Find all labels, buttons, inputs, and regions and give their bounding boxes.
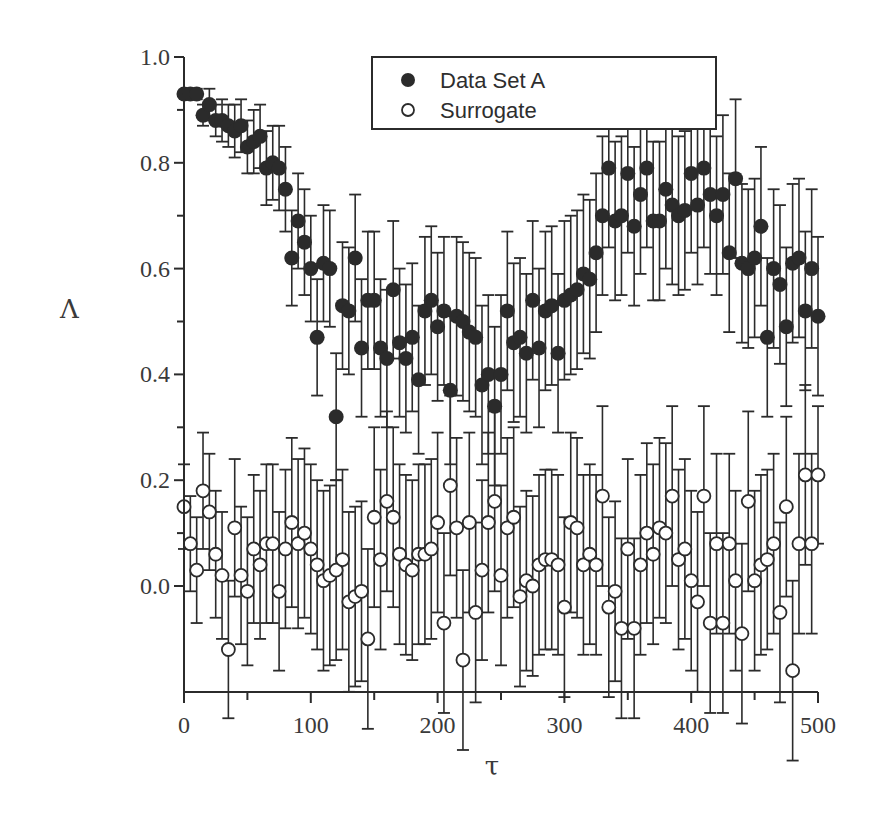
- data-point-filled: [696, 161, 711, 176]
- data-point-filled: [424, 293, 439, 308]
- data-point-filled: [443, 383, 458, 398]
- data-point-open: [615, 622, 628, 635]
- data-point-open: [273, 585, 286, 598]
- y-axis-title: Λ: [59, 294, 80, 324]
- data-point-open: [482, 516, 495, 529]
- data-point-filled: [715, 187, 730, 202]
- data-point-open: [742, 495, 755, 508]
- data-point-open: [469, 606, 482, 619]
- data-point-open: [735, 627, 748, 640]
- data-point-filled: [791, 251, 806, 266]
- data-point-filled: [779, 319, 794, 334]
- data-point-open: [748, 574, 761, 587]
- data-point-open: [526, 580, 539, 593]
- data-point-open: [792, 537, 805, 550]
- data-point-filled: [284, 251, 299, 266]
- data-point-filled: [766, 261, 781, 276]
- data-point-open: [241, 585, 254, 598]
- data-point-open: [634, 558, 647, 571]
- data-point-open: [685, 574, 698, 587]
- data-point-filled: [620, 166, 635, 181]
- data-point-open: [799, 468, 812, 481]
- data-point-open: [222, 643, 235, 656]
- data-point-filled: [329, 409, 344, 424]
- data-point-filled: [709, 208, 724, 223]
- data-point-open: [374, 553, 387, 566]
- data-point-open: [380, 495, 393, 508]
- data-point-open: [602, 601, 615, 614]
- data-point-open: [488, 495, 501, 508]
- data-point-filled: [494, 367, 509, 382]
- data-point-open: [425, 542, 438, 555]
- data-point-open: [507, 511, 520, 524]
- data-point-open: [368, 511, 381, 524]
- data-point-filled: [430, 319, 445, 334]
- data-point-filled: [722, 245, 737, 260]
- data-point-filled: [525, 293, 540, 308]
- data-point-open: [571, 521, 584, 534]
- data-point-open: [190, 564, 203, 577]
- data-point-filled: [753, 219, 768, 234]
- data-point-filled: [570, 282, 585, 297]
- data-point-filled: [253, 129, 268, 144]
- data-point-open: [235, 569, 248, 582]
- data-point-open: [279, 542, 292, 555]
- data-point-filled: [652, 213, 667, 228]
- data-point-filled: [297, 235, 312, 250]
- y-tick-label: 0.6: [140, 256, 170, 282]
- data-point-open: [444, 479, 457, 492]
- data-point-filled: [310, 330, 325, 345]
- y-tick-label: 0.0: [140, 573, 170, 599]
- legend-label-data-set-a: Data Set A: [440, 68, 546, 93]
- data-point-filled: [728, 171, 743, 186]
- data-point-open: [640, 527, 653, 540]
- x-tick-label: 200: [420, 712, 456, 738]
- data-point-filled: [633, 187, 648, 202]
- data-point-open: [304, 542, 317, 555]
- data-point-open: [558, 601, 571, 614]
- data-point-open: [209, 548, 222, 561]
- data-point-open: [773, 606, 786, 619]
- data-point-filled: [500, 303, 515, 318]
- y-tick-label: 0.4: [140, 361, 170, 387]
- data-point-filled: [658, 182, 673, 197]
- data-point-open: [628, 622, 641, 635]
- data-point-filled: [487, 399, 502, 414]
- data-point-open: [203, 505, 216, 518]
- data-point-filled: [804, 261, 819, 276]
- data-point-filled: [411, 372, 426, 387]
- data-point-open: [197, 484, 210, 497]
- data-point-filled: [639, 161, 654, 176]
- legend-label-surrogate: Surrogate: [440, 98, 537, 123]
- data-point-open: [495, 569, 508, 582]
- data-point-filled: [379, 351, 394, 366]
- data-point-open: [456, 654, 469, 667]
- data-point-open: [761, 553, 774, 566]
- data-point-open: [254, 558, 267, 571]
- data-point-open: [475, 564, 488, 577]
- y-tick-label: 0.2: [140, 467, 170, 493]
- data-point-filled: [627, 219, 642, 234]
- data-point-open: [767, 537, 780, 550]
- data-point-filled: [291, 213, 306, 228]
- chart: 0.00.20.40.60.81.0 0100200300400500 Λ τ …: [0, 0, 888, 840]
- data-point-filled: [386, 282, 401, 297]
- data-point-open: [406, 564, 419, 577]
- data-point-open: [266, 537, 279, 550]
- x-tick-label: 300: [546, 712, 582, 738]
- data-point-open: [590, 558, 603, 571]
- y-tick-label: 0.8: [140, 150, 170, 176]
- data-point-filled: [278, 182, 293, 197]
- data-point-open: [647, 548, 660, 561]
- data-point-filled: [272, 161, 287, 176]
- data-point-filled: [551, 346, 566, 361]
- x-tick-label: 100: [293, 712, 329, 738]
- data-point-filled: [354, 340, 369, 355]
- data-point-open: [780, 500, 793, 513]
- data-point-filled: [468, 330, 483, 345]
- data-point-open: [621, 542, 634, 555]
- data-point-open: [704, 617, 717, 630]
- data-point-open: [514, 590, 527, 603]
- data-point-open: [697, 490, 710, 503]
- data-point-open: [184, 537, 197, 550]
